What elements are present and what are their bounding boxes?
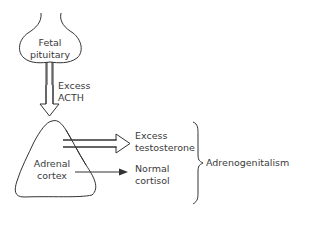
acth-label-line2: ACTH: [58, 92, 90, 104]
cortisol-label: Normal cortisol: [135, 163, 170, 186]
cortisol-label-line2: cortisol: [135, 175, 170, 187]
adrenal-label-line2: cortex: [32, 170, 72, 182]
pituitary-label-line2: pituitary: [25, 49, 75, 61]
acth-label: Excess ACTH: [58, 80, 90, 103]
cortisol-arrow-head: [119, 169, 128, 176]
testosterone-label: Excess testosterone: [135, 130, 195, 153]
cortisol-label-line1: Normal: [135, 163, 170, 175]
adrenal-label: Adrenal cortex: [32, 158, 72, 181]
testosterone-label-line2: testosterone: [135, 142, 195, 154]
acth-label-line1: Excess: [58, 80, 90, 92]
pituitary-label: Fetal pituitary: [25, 37, 75, 60]
pituitary-label-line1: Fetal: [25, 37, 75, 49]
testosterone-label-line1: Excess: [135, 130, 195, 142]
testosterone-arrow: [63, 134, 130, 153]
acth-arrow: [40, 85, 59, 116]
adrenal-label-line1: Adrenal: [32, 158, 72, 170]
outcome-label: Adrenogenitalism: [206, 157, 289, 169]
